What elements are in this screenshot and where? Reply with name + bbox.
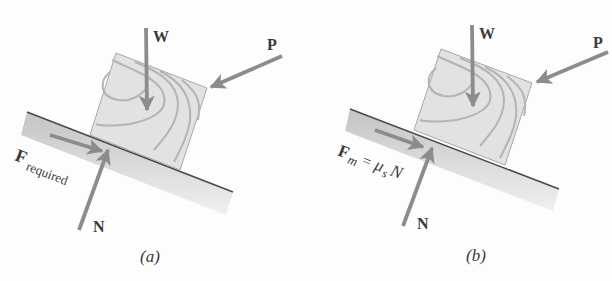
push-force-arrow <box>537 52 608 82</box>
push-force-label: P <box>267 36 277 53</box>
panel-a: W P F required N (a) <box>11 28 282 266</box>
panel-a-caption: (a) <box>140 247 160 266</box>
weight-label: W <box>479 25 495 42</box>
friction-subscript: required <box>24 158 70 188</box>
normal-force-label: N <box>93 218 105 235</box>
push-force-arrow <box>211 56 282 87</box>
panel-b-caption: (b) <box>466 246 486 265</box>
panel-b: W P F m = μ s N N (b) <box>334 25 608 265</box>
push-force-label: P <box>593 34 603 51</box>
friction-equals-sign: = <box>360 152 374 170</box>
weight-label: W <box>153 28 169 45</box>
weight-arrow <box>146 28 147 110</box>
normal-force-label: N <box>417 215 429 232</box>
friction-diagram-figure: W P F required N (a) <box>0 0 612 281</box>
weight-arrow <box>472 25 473 106</box>
diagram-canvas: W P F required N (a) <box>0 0 612 281</box>
friction-normal-symbol: N <box>387 161 407 184</box>
